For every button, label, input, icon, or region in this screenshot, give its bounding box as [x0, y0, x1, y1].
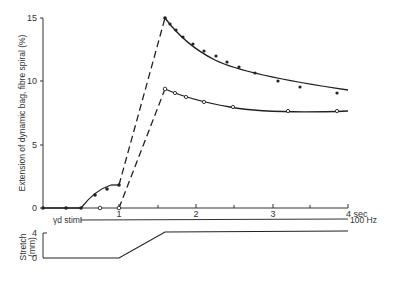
y-axis-title: Extension of dynamic bag, fibre spiral (…: [17, 34, 27, 191]
series-open: [98, 87, 348, 210]
y-tick-5: 5: [32, 140, 37, 150]
stim-label: γd stim: [53, 215, 80, 225]
series-filled: [41, 16, 348, 210]
stretch-unit: (mm): [27, 237, 37, 257]
y-tick-10: 10: [27, 76, 37, 86]
y-tick-15: 15: [27, 13, 37, 23]
stretch-tick-4: 4: [32, 228, 37, 238]
stim-bar: [81, 219, 348, 220]
y-tick-0: 0: [32, 203, 37, 213]
stim-frequency: 100 Hz: [350, 215, 377, 225]
x-tick-3: 3: [270, 209, 275, 219]
x-tick-1: 1: [116, 209, 121, 219]
chart: 15 10 5 0 Extension of dynamic bag, fibr…: [0, 0, 400, 281]
stretch-trace: [43, 231, 348, 258]
x-tick-2: 2: [193, 209, 198, 219]
